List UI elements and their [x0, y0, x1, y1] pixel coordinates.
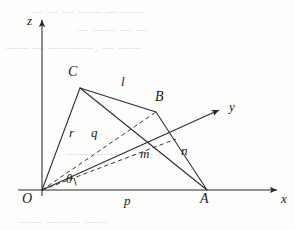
- dashed-edge-group: [42, 112, 176, 190]
- edge-Om-dashed: [42, 139, 176, 190]
- point-label-B: B: [155, 90, 164, 104]
- point-label-A: A: [200, 192, 209, 206]
- segment-label-m: m: [140, 147, 149, 160]
- segment-label-r: r: [69, 126, 74, 139]
- geometry-figure: [0, 0, 295, 230]
- segment-label-p: p: [124, 194, 131, 207]
- segment-label-q: q: [91, 126, 98, 139]
- axis-label-z: z: [27, 14, 32, 27]
- axis-group: [18, 20, 277, 196]
- segment-label-l: l: [121, 75, 125, 88]
- angle-label-theta: θ: [66, 172, 72, 185]
- edge-CA: [80, 88, 207, 190]
- edge-OC: [42, 88, 80, 190]
- edge-OB-dashed: [42, 112, 156, 190]
- segment-label-n: n: [181, 144, 188, 157]
- axis-label-x: x: [281, 192, 287, 205]
- diagram-page: — — — —— — ——— —— — ——— — ————, — ———— —…: [0, 0, 295, 230]
- axis-label-y: y: [229, 100, 235, 113]
- edge-CB: [80, 88, 156, 112]
- point-label-C: C: [68, 65, 77, 79]
- theta-angle-arc: [74, 178, 76, 186]
- point-label-O: O: [22, 192, 32, 206]
